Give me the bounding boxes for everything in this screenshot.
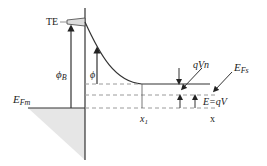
band-diagram: TE ϕB ϕ EFm EFs qVn E=qV x1 x <box>0 0 267 166</box>
efs-label: EFs <box>233 61 249 75</box>
x-axis-label: x <box>210 113 215 124</box>
metal-shaded-region <box>28 108 85 160</box>
efs-pointer-arrow <box>215 72 232 90</box>
phi-b-label: ϕB <box>56 68 67 82</box>
te-label: TE <box>46 16 58 27</box>
efm-label: EFm <box>12 93 31 107</box>
phi-label: ϕ <box>90 69 95 80</box>
e-qv-label: E=qV <box>202 96 229 107</box>
conduction-band-curve <box>85 22 210 84</box>
x1-label: x1 <box>139 113 148 126</box>
qvn-label: qVn <box>193 59 209 70</box>
qvn-pointer-arrow <box>183 68 202 88</box>
te-icon <box>67 18 85 26</box>
